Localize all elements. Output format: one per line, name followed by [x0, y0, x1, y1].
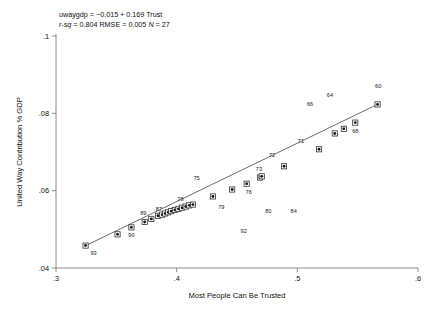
data-point-label: 72 — [269, 152, 275, 158]
data-point-label: 90 — [128, 232, 134, 238]
data-point — [244, 181, 249, 186]
regression-stats: r-sq = 0.804 RMSE = 0.005 N = 27 — [59, 20, 170, 29]
data-point-label: 89 — [140, 210, 146, 216]
data-point — [353, 120, 358, 125]
data-point — [230, 187, 235, 192]
data-point-label: 78 — [177, 196, 183, 202]
data-point — [375, 102, 380, 107]
data-point-label: 79 — [218, 204, 224, 210]
data-point — [210, 194, 215, 199]
y-tick-label: .1 — [43, 32, 49, 41]
data-point — [259, 174, 264, 179]
data-point-label: 87 — [156, 206, 162, 212]
data-point — [281, 164, 286, 169]
x-tick-label: .6 — [415, 274, 421, 283]
data-point-label: 92 — [241, 228, 247, 234]
data-point-label: 66 — [307, 101, 313, 107]
data-point — [83, 243, 88, 248]
y-tick-label: .06 — [39, 186, 49, 195]
data-point — [316, 147, 321, 152]
data-point-label: 68 — [352, 128, 358, 134]
x-tick-label: .4 — [174, 274, 180, 283]
x-tick-label: .3 — [53, 274, 59, 283]
data-point-label: 84 — [291, 208, 297, 214]
data-point — [142, 219, 147, 224]
data-point-label: 93 — [90, 250, 96, 256]
chart-canvas: uwaygdp = −0.015 + 0.169 Trustr-sq = 0.8… — [0, 0, 426, 310]
data-point-label: 75 — [193, 175, 199, 181]
data-point-label: 71 — [298, 138, 304, 144]
data-point-label: 76 — [246, 189, 252, 195]
y-tick-label: .04 — [39, 264, 49, 273]
y-axis-title: United Way Contribution % GDP — [15, 97, 24, 206]
data-point — [332, 131, 337, 136]
data-point-label: 64 — [327, 92, 333, 98]
y-tick-label: .08 — [39, 109, 49, 118]
scatter-plot: uwaygdp = −0.015 + 0.169 Trustr-sq = 0.8… — [0, 0, 426, 310]
data-point — [190, 202, 195, 207]
regression-equation: uwaygdp = −0.015 + 0.169 Trust — [59, 10, 162, 19]
x-tick-label: .5 — [294, 274, 300, 283]
data-point — [115, 232, 120, 237]
data-point-label: 80 — [265, 208, 271, 214]
data-point — [341, 126, 346, 131]
data-point — [129, 225, 134, 230]
data-point — [149, 216, 154, 221]
axis-spines — [56, 34, 418, 268]
x-axis-title: Most People Can Be Trusted — [188, 291, 285, 300]
data-point-label: 60 — [375, 83, 381, 89]
data-point-label: 73 — [256, 166, 262, 172]
